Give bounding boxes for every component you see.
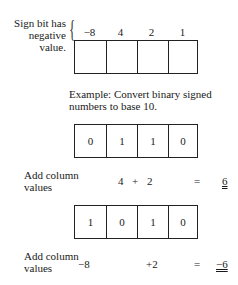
plus-sign: + <box>132 175 138 187</box>
term1: 4 <box>118 175 124 187</box>
weight-label: 2 <box>136 26 167 38</box>
result-2: −6 <box>216 258 228 270</box>
add-label-line2: values <box>24 262 79 274</box>
bit-cell <box>75 41 107 73</box>
bit-cell: 1 <box>75 206 107 238</box>
equals-sign: = <box>194 258 200 270</box>
add-label-line2: values <box>24 181 79 193</box>
bit-cell <box>169 41 197 73</box>
equals-sign: = <box>194 175 200 187</box>
bit-cell: 0 <box>75 125 107 157</box>
bit-cell: 0 <box>107 206 138 238</box>
sign-note-line2: negative value. <box>4 29 66 53</box>
weight-label: −8 <box>74 26 105 38</box>
add-label-line1: Add column <box>24 169 79 181</box>
empty-register <box>74 40 198 74</box>
example-title: Example: Convert binary signed numbers t… <box>69 88 212 112</box>
term2: +2 <box>146 258 158 270</box>
result-1: 6 <box>222 175 228 187</box>
add-label-line1: Add column <box>24 250 79 262</box>
bit-cell: 1 <box>107 125 138 157</box>
bit-cell <box>138 41 169 73</box>
add-label-2: Add column values <box>24 250 79 274</box>
term2: 2 <box>147 175 153 187</box>
bit-cell: 0 <box>169 125 197 157</box>
term1: −8 <box>78 258 90 270</box>
weight-labels: −8 4 2 1 <box>74 26 198 38</box>
register-example-2: 1 0 1 0 <box>74 205 198 239</box>
register-example-1: 0 1 1 0 <box>74 124 198 158</box>
bit-cell: 1 <box>138 206 169 238</box>
weight-label: 1 <box>167 26 198 38</box>
bit-cell <box>107 41 138 73</box>
bit-cell: 0 <box>169 206 197 238</box>
example-title-line1: Example: Convert binary signed <box>69 88 212 100</box>
bit-cell: 1 <box>138 125 169 157</box>
sign-note-line1: Sign bit has <box>4 17 66 29</box>
example-title-line2: numbers to base 10. <box>69 100 212 112</box>
sign-bit-note: Sign bit has negative value. <box>4 17 66 53</box>
weight-label: 4 <box>105 26 136 38</box>
add-label-1: Add column values <box>24 169 79 193</box>
